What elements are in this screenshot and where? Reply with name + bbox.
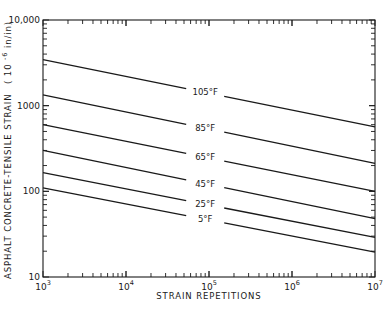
y-tick-label: 1000 bbox=[17, 101, 40, 111]
series-label: 65°F bbox=[195, 152, 215, 162]
series-label: 5°F bbox=[198, 214, 213, 224]
x-tick-label: 104 bbox=[118, 279, 134, 292]
series-line-segment bbox=[43, 60, 186, 89]
y-axis-title-units-open: ( 10 bbox=[3, 64, 13, 84]
y-axis-title-units-close: in/in) bbox=[3, 21, 13, 48]
plot-axes bbox=[43, 20, 375, 277]
series-label: 25°F bbox=[195, 199, 215, 209]
x-axis-title: STRAIN REPETITIONS bbox=[156, 291, 261, 301]
series-label: 45°F bbox=[195, 179, 215, 189]
series-line-segment bbox=[224, 188, 375, 219]
series-line-segment bbox=[224, 208, 375, 237]
axis-ticks bbox=[43, 20, 375, 277]
y-axis-title-main: ASPHALT CONCRETE-TENSILE STRAIN bbox=[3, 94, 13, 279]
series-line-segment bbox=[43, 95, 186, 125]
series-label: 105°F bbox=[193, 87, 218, 97]
y-axis-title-units-exp: -6 bbox=[1, 52, 9, 60]
x-tick-label: 107 bbox=[367, 279, 383, 292]
series-line-segment bbox=[224, 223, 375, 252]
y-tick-label: 100 bbox=[23, 186, 40, 196]
x-tick-label: 106 bbox=[284, 279, 300, 292]
plot-frame bbox=[43, 20, 375, 277]
y-axis-title: ASPHALT CONCRETE-TENSILE STRAIN ( 10 -6 … bbox=[0, 21, 13, 279]
series-line-segment bbox=[224, 161, 375, 191]
series-line-segment bbox=[43, 125, 186, 154]
series-105f: 105°F bbox=[43, 60, 375, 127]
series-5f: 5°F bbox=[43, 188, 375, 252]
series-line-segment bbox=[43, 188, 186, 216]
y-tick-label: 10 bbox=[29, 272, 41, 282]
series-lines: 105°F85°F65°F45°F25°F5°F bbox=[43, 60, 375, 253]
series-line-segment bbox=[224, 96, 375, 127]
y-tick-label: 10,000 bbox=[9, 15, 41, 25]
series-line-segment bbox=[43, 150, 186, 179]
series-label: 85°F bbox=[195, 123, 215, 133]
strain-chart: 105°F85°F65°F45°F25°F5°F 10100100010,000… bbox=[0, 0, 391, 316]
series-line-segment bbox=[43, 173, 186, 201]
series-line-segment bbox=[224, 132, 375, 163]
